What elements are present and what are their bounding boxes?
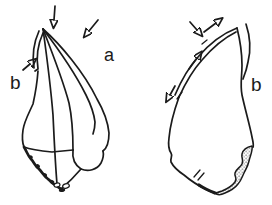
hatch-mark xyxy=(198,173,204,180)
right-artifact-left-outline xyxy=(169,97,216,193)
hatch-mark xyxy=(194,170,200,177)
down-left-arrow-icon xyxy=(170,86,175,95)
left-artifact-right-outline xyxy=(43,29,109,151)
up-right-arrow-icon xyxy=(23,64,30,70)
cortex-patch xyxy=(215,146,252,195)
left-artifact-ridge-2 xyxy=(43,29,73,150)
left-artifact-step-line xyxy=(24,147,73,152)
left-artifact-left-outline xyxy=(22,71,38,147)
right-artifact-edge-inner xyxy=(179,32,236,97)
label-edge-a: a xyxy=(104,45,115,65)
left-artifact-basal-scar xyxy=(73,150,104,170)
down-arrow-icon xyxy=(54,6,55,20)
left-artifact: a b xyxy=(10,6,115,193)
label-edge-b-right: b xyxy=(251,74,262,95)
edge-tick xyxy=(202,40,207,44)
right-artifact-basal-edge xyxy=(199,185,215,193)
up-right-arrow-icon xyxy=(204,23,216,32)
down-right-arrow-icon xyxy=(190,22,197,30)
right-artifact-edge-b-line xyxy=(243,24,250,79)
base-scar-ring xyxy=(62,183,70,189)
down-left-arrow-icon xyxy=(89,20,98,31)
lithic-figure: a b xyxy=(0,0,272,205)
right-artifact: b xyxy=(169,22,262,195)
lithic-drawing: a b xyxy=(0,0,272,205)
left-artifact-ridge-1 xyxy=(43,29,57,184)
label-edge-b-left: b xyxy=(10,72,21,93)
